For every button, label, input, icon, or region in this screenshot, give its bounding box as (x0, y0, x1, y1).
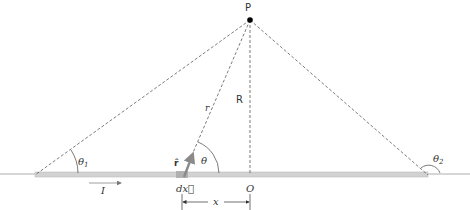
line-p-left-end (35, 20, 250, 175)
point-p (247, 17, 253, 23)
wire (35, 172, 428, 177)
label-origin: O (246, 183, 254, 194)
label-current: I (100, 185, 106, 196)
label-r-hat: r̂ (174, 158, 179, 168)
label-theta: θ (201, 155, 207, 166)
line-r (192, 20, 250, 155)
label-r: r (205, 103, 210, 113)
label-x: x (213, 196, 219, 207)
label-theta1: θ1 (78, 156, 89, 169)
label-theta2: θ2 (433, 153, 444, 166)
theta1-arc (71, 150, 78, 173)
line-p-right-end (250, 20, 428, 175)
label-R: R (236, 94, 243, 105)
label-p: P (245, 2, 251, 13)
label-dx: dx⃗ (176, 183, 194, 194)
wire-field-diagram: P R r r̂ θ θ1 θ2 I dx⃗ O x (0, 0, 470, 210)
